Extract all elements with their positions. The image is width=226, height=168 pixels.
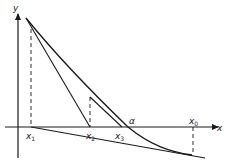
x1-label: x1 bbox=[25, 131, 35, 142]
newton-method-diagram: y x x1 x2 x3 x0 α bbox=[0, 0, 226, 168]
x-axis-label: x bbox=[216, 123, 223, 133]
tangent-line-2 bbox=[90, 97, 122, 127]
root-alpha-label: α bbox=[129, 116, 135, 126]
diagram-canvas: y x x1 x2 x3 x0 α bbox=[0, 0, 226, 168]
function-curve bbox=[26, 18, 192, 155]
x3-label: x3 bbox=[114, 131, 124, 142]
y-axis-label: y bbox=[12, 3, 19, 13]
x2-label: x2 bbox=[85, 131, 95, 142]
x0-label: x0 bbox=[188, 116, 198, 127]
tangent-line-1 bbox=[26, 18, 90, 127]
